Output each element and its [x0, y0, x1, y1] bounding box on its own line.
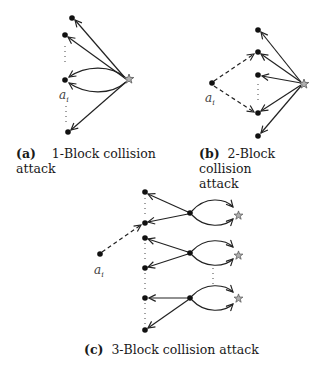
node [187, 250, 193, 256]
node [255, 133, 261, 139]
panel-a-graph [62, 15, 134, 135]
edge [261, 86, 301, 133]
edge [262, 76, 301, 83]
dashed-edge [214, 86, 254, 112]
edge-curved [192, 255, 233, 265]
node [255, 110, 261, 116]
edge [148, 239, 188, 252]
edge-curved [192, 286, 233, 296]
caption-title: 3-Block collision attack [111, 342, 258, 357]
edge [148, 300, 188, 328]
edge-curved [192, 215, 233, 225]
star-icon [234, 211, 243, 219]
node [187, 210, 193, 216]
node-ai [209, 80, 215, 86]
edge-curved [69, 82, 126, 92]
caption-title-line2: attack [199, 176, 239, 191]
node [142, 327, 148, 333]
node-label-b: ai [205, 91, 215, 107]
node-ai [97, 251, 103, 257]
node-label-a: ai [59, 88, 69, 104]
edge-curved [192, 200, 233, 211]
edge [148, 254, 188, 267]
caption-title: 1-Block collision [52, 146, 156, 161]
dashed-edge [214, 54, 254, 81]
edge [261, 32, 301, 82]
edge-curved [192, 241, 233, 251]
node [187, 295, 193, 301]
node-ai [62, 77, 68, 83]
caption-a: (a) 1-Block collision attack [16, 146, 156, 176]
label-subscript: i [212, 98, 215, 107]
caption-tag: (b) [199, 146, 220, 161]
node-label-c: ai [94, 263, 104, 279]
panel-b-graph [209, 27, 309, 139]
edge [148, 194, 188, 212]
caption-b: (b) 2-Block collision attack [199, 146, 328, 191]
node [142, 235, 148, 241]
edge-curved [192, 300, 233, 310]
star-icon [234, 251, 243, 259]
node [255, 49, 261, 55]
edge [71, 82, 126, 130]
caption-tag: (c) [84, 342, 103, 357]
node [142, 189, 148, 195]
node [255, 27, 261, 33]
edge [261, 54, 301, 82]
edge [148, 214, 188, 222]
caption-title-line2: attack [16, 161, 56, 176]
node [69, 15, 75, 21]
node [142, 220, 148, 226]
label-subscript: i [101, 270, 104, 279]
node [62, 32, 68, 38]
label-subscript: i [66, 95, 69, 104]
caption-tag: (a) [16, 146, 36, 161]
edge [261, 85, 301, 111]
node [142, 265, 148, 271]
dashed-edge [102, 225, 141, 252]
node [65, 129, 71, 135]
star-icon [234, 294, 243, 302]
node [142, 295, 148, 301]
caption-c: (c) 3-Block collision attack [84, 342, 284, 357]
node [255, 72, 261, 78]
panel-c-graph [97, 189, 243, 333]
